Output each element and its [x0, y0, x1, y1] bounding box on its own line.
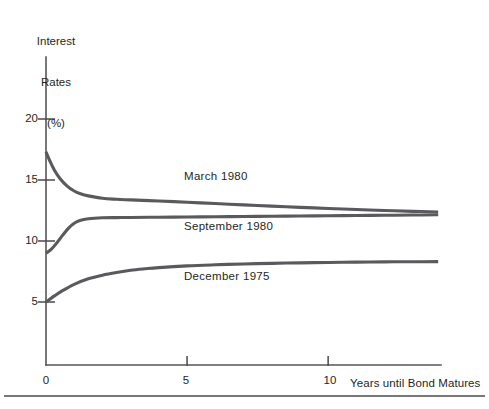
- series-annotation-march-1980: March 1980: [184, 170, 248, 184]
- x-tick-label-5: 5: [174, 374, 198, 388]
- y-tick-label-15: 15: [12, 173, 38, 187]
- y-axis-title-line-2: Rates: [18, 76, 94, 90]
- y-tick-label-10: 10: [12, 234, 38, 248]
- series-annotation-september-1980: September 1980: [184, 220, 273, 234]
- series-annotation-december-1975: December 1975: [184, 270, 270, 284]
- x-tick-label-0: 0: [34, 374, 58, 388]
- x-axis-title: Years until Bond Matures: [350, 377, 480, 391]
- y-tick-label-5: 5: [12, 295, 38, 309]
- interest-rate-yield-curve-figure: Interest Rates (%) 20 15 10 5 0 5 10 Mar…: [0, 0, 489, 409]
- y-tick-label-20: 20: [12, 112, 38, 126]
- y-axis-title-line-1: Interest: [18, 35, 94, 49]
- y-axis-title: Interest Rates (%): [18, 8, 94, 157]
- x-tick-label-10: 10: [318, 374, 342, 388]
